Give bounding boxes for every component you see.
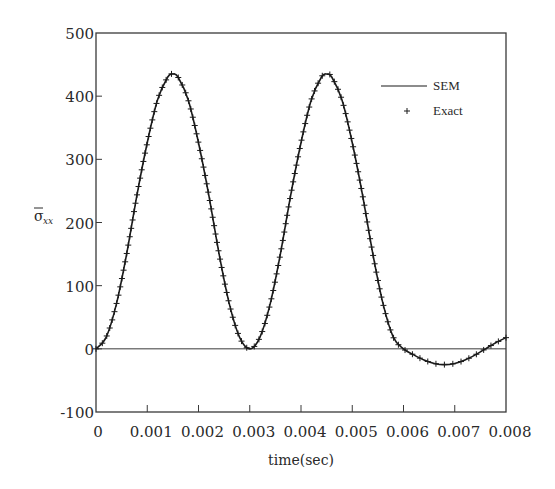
x-tick-label: 0.005: [335, 423, 378, 441]
legend-label-sem: SEM: [433, 78, 460, 93]
x-tick-label: 0.007: [437, 423, 480, 441]
x-tick-label: 0.008: [489, 423, 532, 441]
y-axis-title-subscript: xx: [43, 216, 53, 226]
legend-exact-plus-icon: [404, 108, 410, 114]
legend-label-exact: Exact: [433, 103, 463, 118]
y-tick-label: 100: [65, 278, 94, 296]
x-tick-label: 0.004: [284, 423, 327, 441]
y-tick-label: -100: [60, 404, 94, 422]
y-tick-label: 500: [65, 25, 94, 43]
y-tick-label: 0: [84, 341, 94, 359]
y-tick-label: 300: [65, 151, 94, 169]
chart: -1000100200300400500 00.0010.0020.0030.0…: [0, 0, 555, 489]
x-tick-label: 0.006: [386, 423, 429, 441]
x-tick-label: 0.002: [181, 423, 224, 441]
legend: SEM Exact: [381, 78, 463, 118]
y-tick-label: 400: [65, 88, 94, 106]
y-axis-title: σ xx: [34, 208, 53, 226]
x-axis-title: time(sec): [268, 452, 334, 468]
x-tick-label: 0: [93, 423, 103, 441]
x-axis-ticks: 00.0010.0020.0030.0040.0050.0060.0070.00…: [93, 405, 531, 441]
y-tick-label: 200: [65, 215, 94, 233]
x-tick-label: 0.001: [130, 423, 173, 441]
x-tick-label: 0.003: [232, 423, 275, 441]
